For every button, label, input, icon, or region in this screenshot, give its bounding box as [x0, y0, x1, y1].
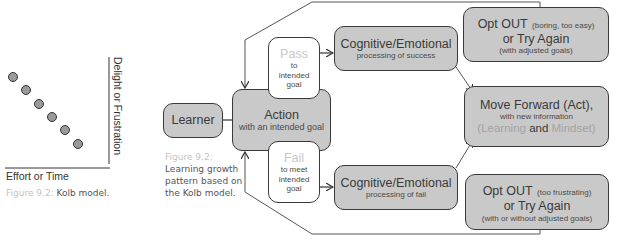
- move-forward-line3: (Learning and Mindset): [477, 122, 595, 135]
- caption-number: Figure 9.2:: [165, 151, 242, 163]
- pass-line: intended: [279, 71, 310, 80]
- opt-out-label: Opt OUT: [483, 184, 533, 198]
- mindset-label: Mindset: [552, 122, 592, 134]
- paren-close: ): [592, 122, 596, 134]
- pass-title: Pass: [280, 47, 308, 61]
- cognitive-fail-subtitle: processing of fail: [366, 190, 426, 199]
- learning-growth-caption: Figure 9.2: Learning growth pattern base…: [165, 151, 242, 199]
- cognitive-success-subtitle: processing of success: [357, 51, 436, 60]
- opt-out-top-note: (with adjusted goals): [499, 46, 572, 55]
- try-again-label: or Try Again: [504, 199, 571, 213]
- fail-title: Fail: [284, 151, 304, 165]
- move-forward-box: Move Forward (Act), with new information…: [464, 86, 609, 147]
- learning-label: Learning: [481, 122, 526, 134]
- caption-line: pattern based on: [165, 175, 242, 187]
- cognitive-fail-box: Cognitive/Emotional processing of fail: [334, 165, 458, 210]
- learner-label: Learner: [171, 113, 214, 127]
- x-axis-label: Effort or Time: [6, 170, 69, 182]
- action-title: Action: [264, 108, 299, 122]
- caption-line: Learning growth: [165, 163, 242, 175]
- cognitive-success-box: Cognitive/Emotional processing of succes…: [334, 26, 458, 71]
- try-again-label: or Try Again: [503, 32, 570, 46]
- opt-out-reason: (too frustrating): [537, 188, 591, 197]
- data-point: [21, 85, 31, 95]
- data-point: [73, 139, 83, 149]
- caption-number: Figure 9.2:: [6, 188, 54, 198]
- kolb-caption: Figure 9.2: Kolb model.: [6, 187, 109, 199]
- opt-out-bottom-line1: Opt OUT (too frustrating): [483, 181, 592, 199]
- pass-box: Pass to intended goal: [268, 37, 320, 99]
- pass-line: goal: [286, 80, 301, 89]
- move-forward-title: Move Forward (Act),: [480, 98, 593, 112]
- caption-line: the Kolb model.: [165, 187, 242, 199]
- opt-out-bottom-box: Opt OUT (too frustrating) or Try Again (…: [465, 174, 609, 230]
- cognitive-fail-title: Cognitive/Emotional: [340, 176, 451, 190]
- fail-line: goal: [286, 184, 301, 193]
- fail-line: to meet: [281, 165, 308, 174]
- data-point: [34, 99, 44, 109]
- action-subtitle: with an intended goal: [239, 122, 324, 132]
- caption-text: Kolb model.: [57, 188, 110, 198]
- opt-out-top-box: Opt OUT (boring, too easy) or Try Again …: [463, 7, 609, 62]
- data-point: [60, 125, 70, 135]
- fail-line: intended: [279, 175, 310, 184]
- and-label: and: [526, 122, 552, 134]
- learner-box: Learner: [163, 103, 223, 138]
- opt-out-bottom-note: (with or without adjusted goals): [482, 214, 592, 223]
- fail-box: Fail to meet intended goal: [268, 141, 320, 203]
- opt-out-top-line1: Opt OUT (boring, too easy): [478, 14, 595, 32]
- y-axis-label: Delight or Frustration: [112, 57, 124, 155]
- opt-out-reason: (boring, too easy): [532, 21, 594, 30]
- pass-line: to: [291, 61, 298, 70]
- move-forward-subtitle: with new information: [500, 112, 573, 121]
- cognitive-success-title: Cognitive/Emotional: [340, 37, 451, 51]
- opt-out-label: Opt OUT: [478, 17, 528, 31]
- data-point: [8, 72, 18, 82]
- data-point: [47, 112, 57, 122]
